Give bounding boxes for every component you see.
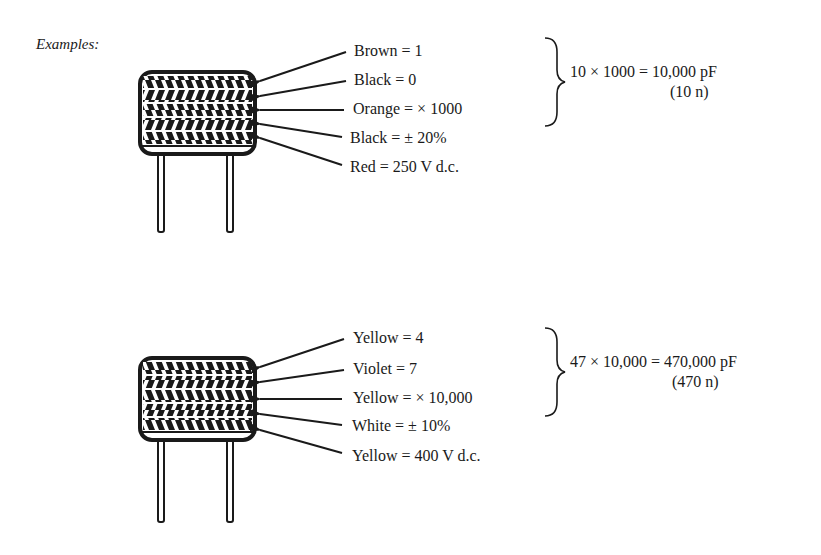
- band-label: Brown = 1: [354, 42, 423, 60]
- arrows-2: [260, 339, 344, 453]
- band-label: White = ± 10%: [352, 417, 450, 435]
- capacitor-2: [140, 358, 255, 522]
- band-label: Black = 0: [354, 71, 416, 89]
- result-short: (10 n): [670, 82, 709, 102]
- band-label: Violet = 7: [353, 360, 417, 378]
- band-label: Black = ± 20%: [350, 129, 446, 147]
- capacitor-1: [140, 72, 255, 232]
- band-label: Yellow = × 10,000: [353, 389, 473, 407]
- band-label: Orange = × 1000: [353, 100, 462, 118]
- brace-1: [545, 38, 565, 126]
- result-value: 10 × 1000 = 10,000 pF: [570, 62, 717, 82]
- band-label: Yellow = 4: [353, 329, 424, 347]
- band-label: Yellow = 400 V d.c.: [352, 447, 481, 465]
- band-label: Red = 250 V d.c.: [350, 158, 459, 176]
- result-short: (470 n): [672, 372, 719, 392]
- result-value: 47 × 10,000 = 470,000 pF: [570, 352, 737, 372]
- brace-2: [545, 328, 565, 416]
- arrows-1: [260, 52, 346, 165]
